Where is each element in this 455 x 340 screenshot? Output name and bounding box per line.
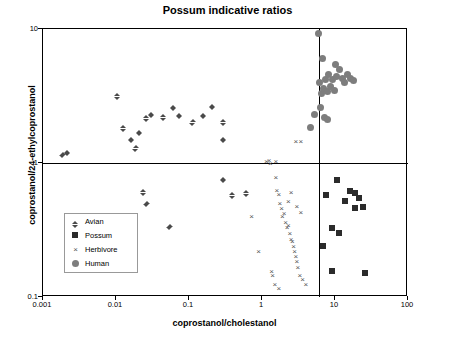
data-point-possum [352,205,358,211]
legend-item-avian: Avian [69,215,137,228]
data-point-herbivore: × [280,210,287,217]
data-point-possum [329,225,335,231]
reference-line-vertical [319,29,320,297]
data-point-possum [360,204,366,210]
data-point-avian [120,122,126,128]
x-tick [261,296,262,300]
legend-label: Herbivore [85,243,118,256]
data-point-human [350,77,357,84]
data-point-herbivore: × [275,191,282,198]
x-tick-label: 0.01 [108,300,123,309]
data-point-herbivore: × [288,189,295,196]
data-point-herbivore: × [272,158,279,165]
x-tick-label: 0.001 [33,300,52,309]
x-tick [115,296,116,300]
data-point-avian [220,116,226,122]
data-point-possum [342,198,348,204]
data-point-avian [220,174,226,180]
chart-root: Possum indicative ratios ×××××××××××××××… [0,0,455,340]
data-point-avian [190,116,196,122]
x-tick [188,296,189,300]
legend-item-possum: Possum [69,229,137,242]
x-axis-title: coprostanol/cholestanol [42,318,407,328]
data-point-possum [356,195,362,201]
data-point-avian [220,134,226,140]
data-point-avian [133,142,139,148]
x-tick-label: 1 [259,300,263,309]
data-point-possum [323,192,329,198]
data-point-human [315,30,322,37]
data-point-herbivore: × [255,248,262,255]
data-point-human [331,87,338,94]
chart-title: Possum indicative ratios [0,4,455,16]
data-point-herbivore: × [268,268,275,275]
data-point-herbivore: × [272,174,279,181]
data-point-human [307,124,314,131]
legend-item-herbivore: ×Herbivore [69,243,137,256]
x-tick [407,296,408,300]
y-tick [38,162,42,163]
x-tick-label: 0.1 [183,300,193,309]
legend-marker-circle-icon [72,260,79,267]
data-point-avian [209,101,215,107]
data-point-avian [229,189,235,195]
data-point-avian [140,186,146,192]
y-tick-label: 10 [20,24,38,33]
data-point-avian [243,187,249,193]
y-tick [38,28,42,29]
data-point-avian [200,110,206,116]
x-tick [42,296,43,300]
y-tick [38,296,42,297]
data-point-human [317,104,324,111]
data-point-herbivore: × [302,281,309,288]
reference-line-horizontal [43,163,408,164]
data-point-human [311,111,318,118]
data-point-human [332,61,339,68]
data-point-avian [144,198,150,204]
data-point-herbivore: × [275,285,282,292]
data-point-avian [176,110,182,116]
data-point-avian [148,109,154,115]
legend-marker-x-icon: × [72,246,79,253]
data-point-avian [128,134,134,140]
legend-label: Avian [85,215,104,228]
data-point-herbivore: × [297,209,304,216]
data-point-herbivore: × [285,198,292,205]
data-point-avian [136,127,142,133]
y-tick-label: 0.1 [20,292,38,301]
data-point-avian [114,90,120,96]
data-point-possum [362,270,368,276]
data-point-possum [320,243,326,249]
data-point-avian [170,102,176,108]
data-point-avian [160,111,166,117]
x-tick [334,296,335,300]
legend-marker-square-icon [72,232,78,238]
data-point-human [324,116,331,123]
data-point-possum [336,230,342,236]
x-tick-label: 100 [401,300,414,309]
data-point-avian [167,221,173,227]
data-point-herbivore: × [297,138,304,145]
data-point-avian [64,147,70,153]
legend-marker-diamond-icon [72,218,78,224]
legend-label: Possum [85,229,112,242]
data-point-herbivore: × [248,213,255,220]
y-axis-title: coprostanol/24-ethylcoprostanol [27,35,37,275]
data-point-human [319,55,326,62]
legend-item-human: Human [69,257,137,270]
data-point-possum [329,268,335,274]
legend-label: Human [85,257,109,270]
x-tick-label: 10 [330,300,338,309]
chart-legend: AvianPossum×HerbivoreHuman [64,213,138,273]
data-point-possum [334,177,340,183]
